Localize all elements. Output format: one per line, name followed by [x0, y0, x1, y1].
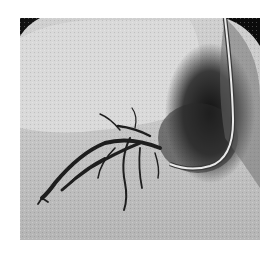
- angiography-image: [20, 18, 260, 240]
- angiography-figure: [20, 18, 260, 240]
